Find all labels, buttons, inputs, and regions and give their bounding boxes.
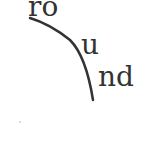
curved-line (0, 0, 145, 161)
stray-dot (19, 121, 21, 123)
